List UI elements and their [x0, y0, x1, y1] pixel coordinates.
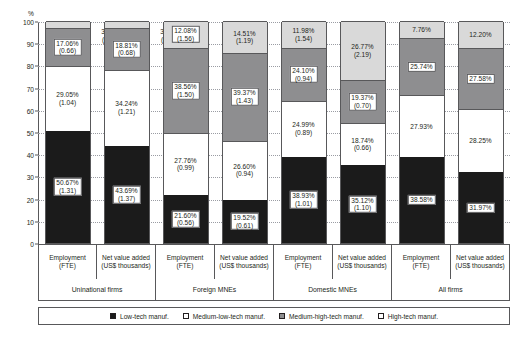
segment-percent: 19.37% [351, 94, 373, 102]
segment-value-label: 19.37%(0.70) [348, 93, 376, 111]
group-axis: Uninational firmsForeign MNEsDomestic MN… [38, 279, 510, 301]
segment-value-label: 35.12%(1.10) [348, 195, 376, 213]
y-axis-tick-label: 80 [27, 63, 34, 70]
y-axis-tick-mark [35, 66, 38, 67]
y-axis-tick-label: 30 [27, 174, 34, 181]
segment-value-label: 34.24%(1.21) [115, 100, 137, 116]
segment-percent: 29.05% [56, 91, 78, 99]
category-line2: (FTE) [295, 262, 312, 270]
legend-item-medlow[interactable]: Medium-low-tech manuf. [183, 313, 265, 320]
category-line1: Net value added [338, 254, 386, 262]
segment-percent: 38.93% [292, 192, 314, 200]
segment-percent: 34.24% [115, 100, 137, 108]
plot-area: 0102030405060708090100 3.21%(0.41)50.67%… [38, 22, 510, 244]
segment-percent: 12.20% [469, 31, 491, 39]
segment-absolute: (0.89) [292, 129, 314, 137]
y-axis-tick-label: 40 [27, 152, 34, 159]
segment-value-label: 19.52%(0.61) [230, 213, 258, 231]
segment-absolute: (1.21) [115, 108, 137, 116]
bar-segment-high[interactable] [46, 21, 90, 28]
segment-value-label: 39.37%(1.43) [230, 88, 258, 106]
bar-foreignmnes-netvalueadded[interactable]: 19.52%(0.61)26.60%(0.94)39.37%(1.43)14.5… [222, 22, 268, 244]
bar-domesticmnes-employment[interactable]: 38.93%(1.01)24.99%(0.89)24.10%(0.94)11.9… [281, 22, 327, 244]
bar-uninational-employment[interactable]: 50.67%(1.31)29.05%(1.04)17.06%(0.66) [45, 22, 91, 244]
segment-absolute: (0.66) [351, 144, 373, 152]
segment-absolute: (0.99) [174, 164, 196, 172]
segment-value-label: 28.25% [469, 137, 491, 145]
legend-swatch-icon [279, 313, 285, 319]
segment-absolute: (1.19) [233, 37, 255, 45]
legend-swatch-icon [110, 313, 116, 319]
segment-percent: 19.52% [233, 214, 255, 222]
bar-foreignmnes-employment[interactable]: 21.60%(0.56)27.76%(0.99)38.56%(1.50)12.0… [163, 22, 209, 244]
group-label-1: Foreign MNEs [156, 279, 274, 301]
chart-legend: Low-tech manuf.Medium-low-tech manuf.Med… [38, 307, 510, 325]
group-label-0: Uninational firms [38, 279, 156, 301]
segment-absolute: (1.54) [293, 34, 315, 42]
segment-percent: 28.25% [469, 137, 491, 145]
segment-value-label: 17.06%(0.66) [53, 38, 81, 56]
segment-percent: 43.69% [115, 187, 137, 195]
segment-percent: 18.81% [115, 41, 137, 49]
segment-percent: 14.51% [233, 29, 255, 37]
category-label-3: Net value added(US$ thousands) [215, 245, 274, 279]
segment-absolute: (1.04) [56, 98, 78, 106]
group-label-text: Domestic MNEs [308, 286, 357, 293]
bar-uninational-netvalueadded[interactable]: 43.69%(1.37)34.24%(1.21)18.81%(0.68) [104, 22, 150, 244]
y-axis-tick-mark [35, 44, 38, 45]
segment-value-label: 50.67%(1.31) [53, 178, 81, 196]
category-line2: (FTE) [413, 262, 430, 270]
category-label-5: Net value added(US$ thousands) [333, 245, 392, 279]
bar-segment-high[interactable] [105, 21, 149, 28]
segment-percent: 39.37% [233, 89, 255, 97]
segment-percent: 31.97% [469, 204, 491, 212]
segment-percent: 26.77% [351, 43, 373, 51]
segment-absolute: (2.19) [351, 51, 373, 59]
y-axis-tick-mark [35, 177, 38, 178]
segment-absolute: (0.70) [351, 102, 373, 110]
segment-value-label: 27.76%(0.99) [174, 156, 196, 172]
group-label-text: Uninational firms [72, 286, 123, 293]
y-axis-tick-mark [35, 199, 38, 200]
segment-absolute: (0.56) [174, 219, 196, 227]
category-line2: (US$ thousands) [219, 262, 268, 270]
segment-percent: 38.58% [410, 196, 432, 204]
y-axis-tick-label: 100 [23, 19, 34, 26]
segment-value-label: 29.05%(1.04) [56, 91, 78, 107]
segment-absolute: (1.31) [56, 187, 78, 195]
legend-swatch-icon [183, 313, 189, 319]
segment-absolute: (1.10) [351, 204, 373, 212]
segment-percent: 35.12% [351, 196, 373, 204]
segment-value-label: 24.99%(0.89) [292, 121, 314, 137]
segment-value-label: 38.58% [407, 195, 435, 205]
segment-value-label: 11.98%(1.54) [293, 27, 315, 43]
segment-percent: 12.08% [174, 27, 196, 35]
group-label-text: All firms [438, 286, 462, 293]
category-line1: Employment [167, 254, 204, 262]
legend-item-high[interactable]: High-tech manuf. [378, 313, 438, 320]
bar-domesticmnes-netvalueadded[interactable]: 35.12%(1.10)18.74%(0.66)19.37%(0.70)26.7… [340, 22, 386, 244]
segment-value-label: 27.58% [466, 74, 494, 84]
segment-percent: 25.74% [410, 63, 432, 71]
legend-label: Low-tech manuf. [120, 313, 169, 320]
segment-value-label: 43.69%(1.37) [112, 186, 140, 204]
segment-value-label: 21.60%(0.56) [171, 210, 199, 228]
group-label-2: Domestic MNEs [274, 279, 392, 301]
legend-item-low[interactable]: Low-tech manuf. [110, 313, 169, 320]
legend-label: Medium-low-tech manuf. [193, 313, 265, 320]
segment-absolute: (1.50) [174, 91, 196, 99]
bar-allfirms-netvalueadded[interactable]: 31.97%28.25%27.58%12.20% [458, 22, 504, 244]
segment-value-label: 26.77%(2.19) [351, 43, 373, 59]
y-axis-tick-label: 0 [30, 241, 34, 248]
legend-label: Medium-high-tech manuf. [289, 313, 364, 320]
y-axis-tick-mark [35, 88, 38, 89]
y-axis-tick-mark [35, 221, 38, 222]
category-line2: (FTE) [59, 262, 76, 270]
bar-allfirms-employment[interactable]: 38.58%27.93%25.74%7.76% [399, 22, 445, 244]
segment-percent: 17.06% [56, 39, 78, 47]
segment-value-label: 26.60%(0.94) [233, 162, 255, 178]
y-axis-tick-label: 50 [27, 130, 34, 137]
segment-percent: 7.76% [412, 26, 431, 34]
segment-value-label: 12.20% [469, 31, 491, 39]
legend-item-medhigh[interactable]: Medium-high-tech manuf. [279, 313, 364, 320]
